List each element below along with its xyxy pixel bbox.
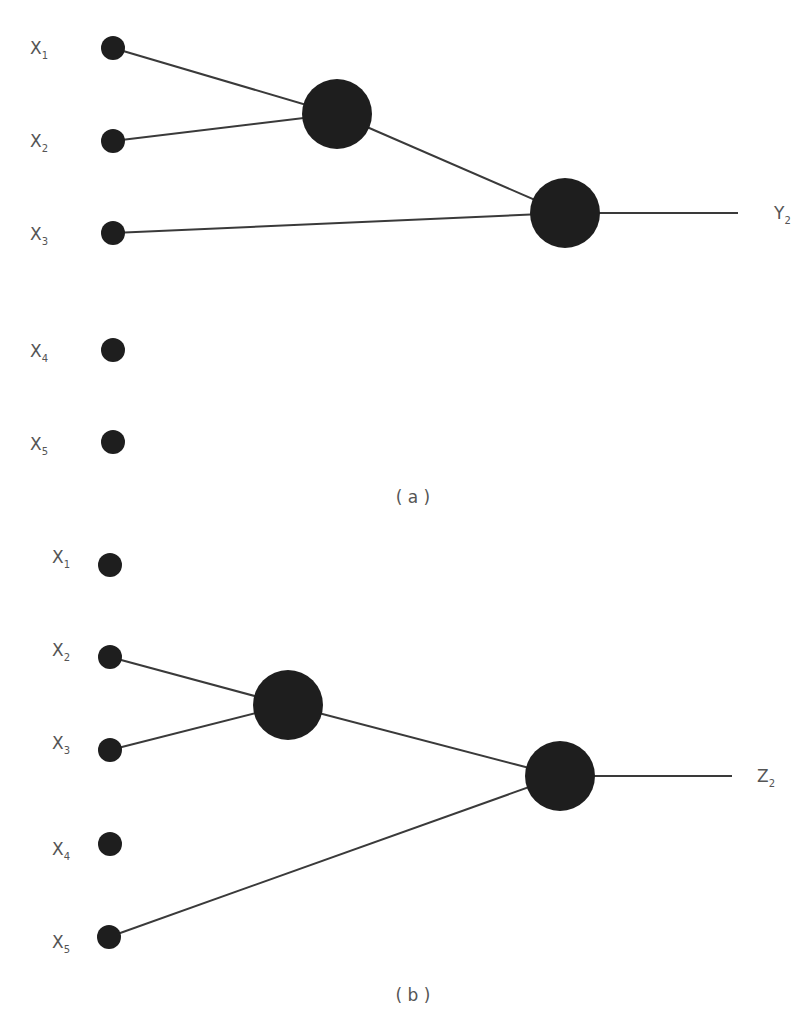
input-node-x5 <box>97 925 121 949</box>
output-label-y2: Y2 <box>773 203 791 226</box>
edge-hidden-output <box>288 705 560 776</box>
input-label-x2: X2 <box>52 640 70 663</box>
edge-x1-hidden <box>113 48 337 114</box>
hidden-node <box>253 670 323 740</box>
edge-hidden-output <box>337 114 565 213</box>
input-label-x2: X2 <box>30 131 48 154</box>
input-node-x3 <box>98 738 122 762</box>
output-label-z2: Z2 <box>757 766 775 789</box>
caption-b: ( b ) <box>396 985 431 1005</box>
input-node-x1 <box>101 36 125 60</box>
input-label-x3: X3 <box>30 224 48 247</box>
panel-a: X1 X2 X3 X4 X5 Y2 ( a ) <box>30 36 791 507</box>
input-label-x3: X3 <box>52 733 70 756</box>
caption-a: ( a ) <box>396 487 431 507</box>
input-node-x4 <box>101 338 125 362</box>
input-label-x5: X5 <box>52 932 70 955</box>
input-node-x4 <box>98 832 122 856</box>
hidden-node <box>302 79 372 149</box>
panel-b: X1 X2 X3 X4 X5 Z2 ( b ) <box>52 547 775 1005</box>
input-label-x1: X1 <box>52 547 70 570</box>
edge-x3-output <box>113 213 565 233</box>
input-label-x5: X5 <box>30 434 48 457</box>
input-node-x5 <box>101 430 125 454</box>
input-node-x2 <box>101 129 125 153</box>
output-node <box>530 178 600 248</box>
input-label-x4: X4 <box>52 839 70 862</box>
input-label-x1: X1 <box>30 38 48 61</box>
input-node-x2 <box>98 645 122 669</box>
network-diagram: X1 X2 X3 X4 X5 Y2 ( a ) X1 X2 X3 X4 X5 Z… <box>0 0 811 1030</box>
edge-x5-output <box>109 776 560 937</box>
input-node-x3 <box>101 221 125 245</box>
output-node <box>525 741 595 811</box>
input-label-x4: X4 <box>30 341 48 364</box>
input-node-x1 <box>98 553 122 577</box>
